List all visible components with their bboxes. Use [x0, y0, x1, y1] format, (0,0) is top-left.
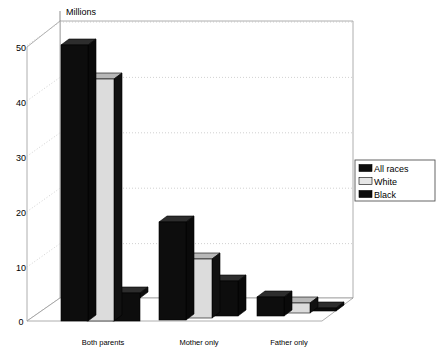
bar-side-face: [186, 216, 194, 320]
bar-front-face: [159, 222, 186, 320]
bar-front-face: [257, 297, 284, 316]
y-tick-label-50: 50: [16, 43, 26, 53]
x-axis-category-labels: Both parents Mother only Father only: [82, 338, 308, 347]
chart-container: 50 40 30 20 10 0 Millions Both parents M…: [0, 0, 439, 358]
bar-side-face: [212, 253, 220, 318]
bar-front-face: [61, 45, 88, 321]
y-tick-label-20: 20: [16, 208, 26, 218]
legend-label-all-races: All races: [374, 164, 409, 174]
bar-both-parents-all-races[interactable]: [61, 39, 96, 321]
x-category-label-2: Father only: [270, 338, 308, 347]
x-category-label-0: Both parents: [82, 338, 125, 347]
y-axis-tick-labels: 50 40 30 20 10 0: [16, 43, 26, 327]
legend-swatch-all-races-icon: [359, 165, 372, 172]
bar-mother-only-all-races[interactable]: [159, 216, 194, 320]
y-tick-label-30: 30: [16, 153, 26, 163]
x-category-label-1: Mother only: [179, 338, 218, 347]
left-wall: [27, 21, 60, 321]
bar-side-face: [238, 275, 246, 316]
y-tick-label-40: 40: [16, 98, 26, 108]
legend-label-black: Black: [374, 190, 397, 200]
legend: All races White Black: [355, 160, 435, 201]
legend-label-white: White: [374, 177, 397, 187]
y-axis-title: Millions: [66, 7, 97, 17]
bar-side-face: [114, 73, 122, 321]
y-tick-label-0: 0: [18, 317, 23, 327]
legend-swatch-white-icon: [359, 178, 372, 185]
bar-chart-3d: 50 40 30 20 10 0 Millions Both parents M…: [0, 0, 439, 358]
legend-swatch-black-icon: [359, 191, 372, 198]
bar-side-face: [88, 39, 96, 321]
y-tick-label-10: 10: [16, 263, 26, 273]
bar-father-only-all-races[interactable]: [257, 291, 292, 316]
